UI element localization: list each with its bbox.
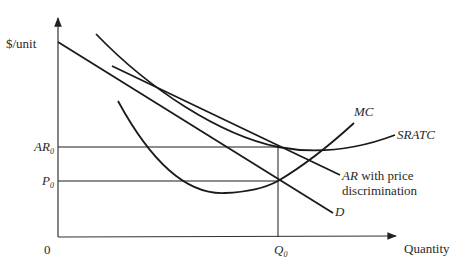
ar-price-discrimination-curve	[112, 66, 340, 175]
demand-label: D	[334, 204, 345, 219]
ar-discrimination-label-line1: AR with price	[341, 168, 414, 183]
p0-label: P0	[41, 173, 54, 190]
ar-discrimination-label-line2: discrimination	[342, 183, 418, 198]
mc-label: MC	[353, 104, 374, 119]
origin-label: 0	[44, 242, 51, 257]
sratc-label: SRATC	[397, 127, 435, 142]
x-axis	[58, 236, 396, 237]
ar0-label: AR0	[33, 139, 54, 156]
diagram-canvas: $/unit Quantity 0 AR0 P0 Q0 D SRATC MC A…	[0, 0, 456, 274]
y-axis-label: $/unit	[6, 36, 37, 51]
x-axis-label: Quantity	[404, 241, 450, 256]
sratc-curve	[96, 34, 395, 150]
q0-label: Q0	[274, 242, 287, 259]
